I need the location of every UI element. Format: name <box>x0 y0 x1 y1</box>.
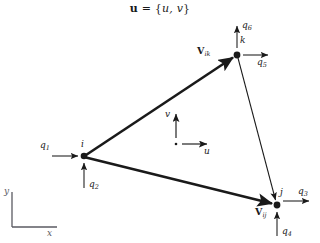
dof-label-q1-text: q <box>40 140 46 150</box>
dof-label-q4-text: q <box>282 226 288 236</box>
edge-kj-line <box>238 58 276 200</box>
node-j-dot <box>274 202 281 209</box>
node-k-dot <box>234 52 241 59</box>
vector-label-v-ik: Vik <box>197 46 210 56</box>
local-axis-label-v: v <box>165 110 170 119</box>
global-axis-label-y: y <box>4 187 9 196</box>
dof-label-q3-sub: 3 <box>304 190 308 198</box>
vector-label-v-ij-subscript: ij <box>262 211 266 219</box>
dof-label-q1: q1 <box>40 141 50 150</box>
dof-label-q3: q3 <box>298 187 308 196</box>
dof-label-q2: q2 <box>89 180 99 189</box>
vector-label-v-ik-subscript: ik <box>204 50 210 58</box>
node-label-i: i <box>81 140 84 149</box>
triangle-diagram-svg <box>0 0 320 243</box>
dof-label-q5: q5 <box>257 58 267 67</box>
dof-label-q2-sub: 2 <box>95 183 99 191</box>
node-i-dot <box>81 153 88 160</box>
dof-label-q2-text: q <box>89 179 95 189</box>
local-axes-origin-dot <box>175 143 178 146</box>
dof-label-q1-sub: 1 <box>46 144 50 152</box>
dof-label-q6-sub: 6 <box>248 24 252 32</box>
dof-label-q4: q4 <box>282 227 292 236</box>
vector-v-ij-line <box>86 158 272 204</box>
figure-canvas: u = {u, v} <box>0 0 320 243</box>
dof-label-q3-text: q <box>298 186 304 196</box>
dof-label-q5-sub: 5 <box>263 61 267 69</box>
dof-label-q6: q6 <box>242 21 252 30</box>
node-label-j: j <box>280 188 283 197</box>
local-axis-label-u: u <box>204 147 210 156</box>
node-label-k: k <box>240 36 245 45</box>
vector-label-v-ij: Vij <box>255 207 266 217</box>
dof-label-q5-text: q <box>257 57 263 67</box>
global-axis-label-x: x <box>47 229 52 238</box>
vector-v-ik-line <box>86 58 233 156</box>
dof-label-q6-text: q <box>242 20 248 30</box>
dof-label-q4-sub: 4 <box>288 230 292 238</box>
